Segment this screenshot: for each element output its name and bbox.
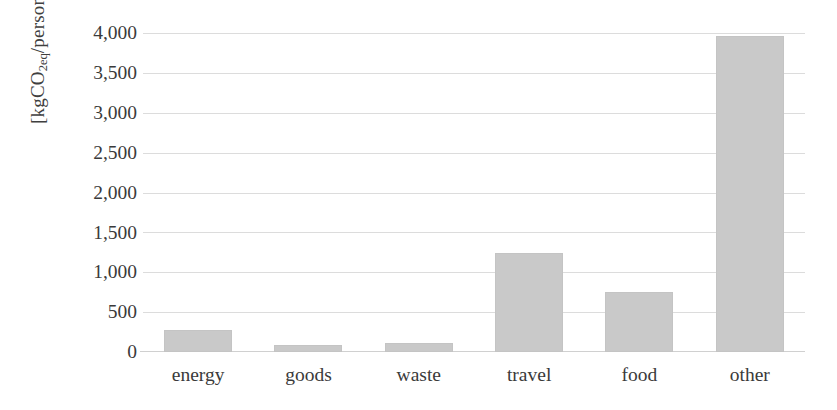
y-tick-label-2500: 2,500 — [0, 143, 137, 163]
x-axis-tick-labels: energy goods waste travel food other — [143, 360, 805, 394]
bar-slot-waste — [364, 33, 474, 352]
bar-travel[interactable] — [495, 253, 563, 352]
y-tick-label-500: 500 — [0, 302, 137, 322]
x-tick-label-energy: energy — [143, 360, 253, 394]
y-tick-label-4000: 4,000 — [0, 23, 137, 43]
y-tick-label-2000: 2,000 — [0, 183, 137, 203]
bar-energy[interactable] — [164, 330, 232, 352]
x-tick-label-goods: goods — [253, 360, 363, 394]
y-tick-label-0: 0 — [0, 342, 137, 362]
bar-food[interactable] — [605, 292, 673, 352]
y-axis-tick-labels: 4,000 3,500 3,000 2,500 2,000 1,500 1,00… — [0, 0, 137, 410]
y-tick-label-3500: 3,500 — [0, 63, 137, 83]
x-tick-label-food: food — [584, 360, 694, 394]
plot-area — [143, 33, 805, 352]
x-tick-label-waste: waste — [364, 360, 474, 394]
y-tick-label-1000: 1,000 — [0, 262, 137, 282]
bar-slot-travel — [474, 33, 584, 352]
bar-slot-goods — [253, 33, 363, 352]
bar-goods[interactable] — [274, 345, 342, 352]
bar-slot-other — [695, 33, 805, 352]
y-tick-label-1500: 1,500 — [0, 223, 137, 243]
bar-other[interactable] — [716, 36, 784, 352]
bar-chart: [kgCO2eq/person] 4,000 3,500 3,000 2,500… — [0, 0, 837, 410]
bar-slot-energy — [143, 33, 253, 352]
x-tick-label-travel: travel — [474, 360, 584, 394]
bar-slot-food — [584, 33, 694, 352]
x-tick-label-other: other — [695, 360, 805, 394]
bar-waste[interactable] — [385, 343, 453, 352]
y-tick-label-3000: 3,000 — [0, 103, 137, 123]
bars-layer — [143, 33, 805, 352]
